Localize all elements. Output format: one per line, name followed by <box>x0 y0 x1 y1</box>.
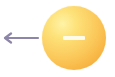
charge-motion-diagram: direction arrow − negative charge <box>0 0 115 77</box>
charge-sign: − <box>42 6 43 7</box>
charge-label: negative charge <box>42 6 43 7</box>
arrow-label: direction arrow <box>0 0 1 1</box>
negative-charge-sphere: − negative charge <box>42 6 106 70</box>
minus-sign-icon <box>63 36 85 40</box>
arrow-left-icon <box>2 32 40 44</box>
